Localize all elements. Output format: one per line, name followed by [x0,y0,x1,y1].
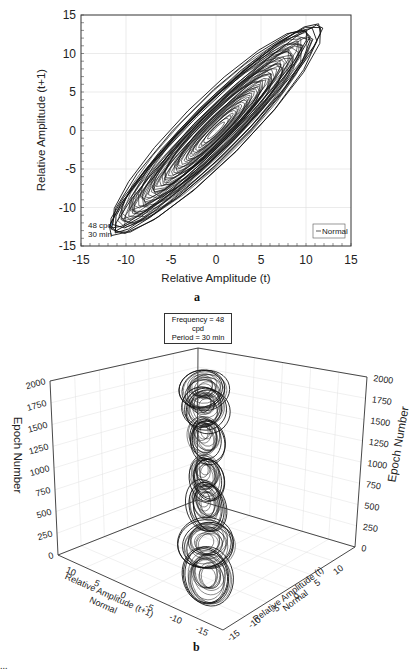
figure-caption-fragment: ... [0,660,418,670]
y-tick-label: 5 [69,85,76,99]
y-tick-label: -15 [225,628,241,644]
z-tick-label-left: 2000 [25,376,47,391]
z-tick-label-right: 2000 [373,373,394,386]
x-tick-label: -5 [166,253,177,267]
panel-a-annotation-period: 30 min [88,230,112,239]
x-tick-label: 0 [213,253,220,267]
z-tick-label-left: 1500 [27,420,49,435]
z-tick-label-left: 1000 [29,463,51,478]
panel-a-label: a [194,290,200,305]
z-tick-label-right: 1750 [371,394,392,407]
panel-b-label: b [193,640,200,655]
legend-entry-normal: Normal [322,227,348,236]
panel-a-chart: -15-10-5051015151050-5-10-15 Relative Am… [35,8,358,284]
y-tick-label: 0 [69,124,76,138]
panel-b-y-axis-label: Relative Amplitude (t) [251,565,325,624]
panel-b-chart: 0025025050050075075010001000125012501500… [12,348,411,644]
z-tick-label-left: 0 [47,550,54,561]
panel-a-legend: Normal [313,224,348,238]
z-tick-label-right: 250 [362,522,378,534]
panel-a-y-axis-label: Relative Amplitude (t+1) [35,69,47,192]
z-tick-label-right: 1250 [368,437,389,450]
panel-a-annotation-frequency: 48 cpd [88,221,112,230]
x-tick-label: -10 [168,612,184,626]
z-tick-label-right: 1500 [370,416,391,429]
y-tick-label: -15 [59,239,77,253]
z-tick-label-left: 500 [35,507,52,521]
panel-b-z-axis-label-right: Epoch Number [385,405,410,483]
x-tick-label: 5 [258,253,265,267]
z-tick-label-left: 1750 [26,398,48,413]
panel-b-period-text: Period = 30 min [165,333,231,342]
z-tick-label-right: 750 [365,479,381,491]
z-tick-label-left: 750 [34,485,51,499]
x-tick-label: -10 [117,253,135,267]
y-tick-label: -5 [65,162,76,176]
x-tick-label: -15 [194,624,210,638]
panel-b-series-normal [173,366,240,611]
y-tick-label: 15 [63,8,77,22]
x-tick-label: 15 [344,253,358,267]
x-tick-label: -15 [72,253,90,267]
z-tick-label-right: 1000 [367,458,388,471]
panel-a-x-axis-label: Relative Amplitude (t) [161,272,270,284]
y-tick-label: 10 [331,563,345,577]
z-tick-label-left: 1250 [28,442,50,457]
z-tick-label-left: 250 [36,529,53,543]
x-tick-label: 10 [299,253,313,267]
y-tick-label: 10 [63,47,77,61]
panel-b-title-box: Frequency = 48 cpd Period = 30 min [164,313,232,344]
z-tick-label-right: 0 [361,543,367,554]
panel-b-z-axis-label-left: Epoch Number [12,417,24,494]
panel-b-frequency-text: Frequency = 48 cpd [165,315,231,333]
y-tick-label: -10 [59,201,77,215]
z-tick-label-right: 500 [364,501,380,513]
